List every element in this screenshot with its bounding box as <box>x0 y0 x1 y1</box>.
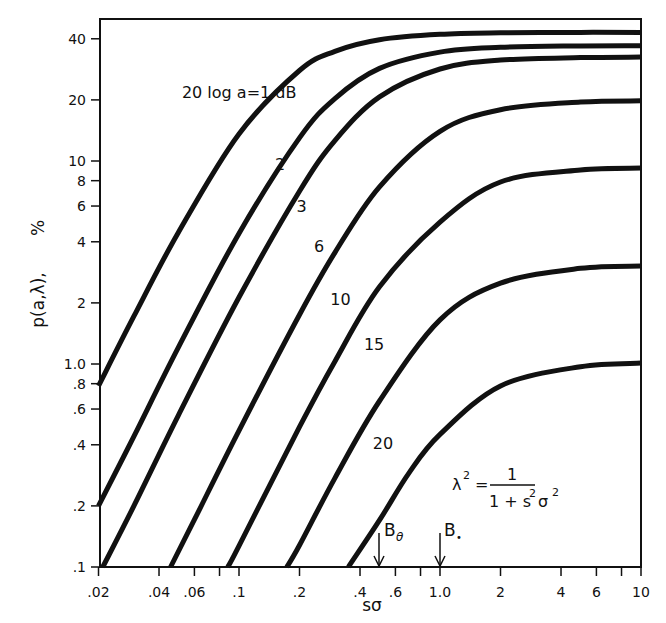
b-e-marker: B • <box>435 520 462 566</box>
y-tick-label: .2 <box>73 498 86 514</box>
b-e-subscript: • <box>456 532 462 543</box>
b-e-label: B <box>444 520 456 540</box>
y-axis-ticks: .1.2.4.6.81.02468102040 <box>64 31 100 575</box>
curves <box>99 32 642 567</box>
y-tick-label: 8 <box>77 173 86 189</box>
y-tick-label: .1 <box>73 559 86 575</box>
chart: .02.04.06.1.2.4.61.024610 .1.2.4.6.81.02… <box>0 0 666 623</box>
y-tick-label: 20 <box>68 92 86 108</box>
y-tick-label: 40 <box>68 31 86 47</box>
curve-label: 20 <box>373 434 393 453</box>
y-tick-label: 4 <box>77 234 86 250</box>
formula-numerator: 1 <box>507 465 517 484</box>
y-tick-label: 1.0 <box>64 356 86 372</box>
x-tick-label: .2 <box>293 584 306 600</box>
curve-label: 15 <box>364 335 384 354</box>
curve-label: 20 log a=1 dB <box>182 83 297 102</box>
curve-label: 2 <box>275 155 285 174</box>
x-tick-label: .1 <box>232 584 245 600</box>
formula-den-sigma: σ <box>538 492 548 511</box>
y-axis-unit: % <box>28 220 48 236</box>
x-tick-label: 6 <box>592 584 601 600</box>
curve-15-db <box>287 266 641 567</box>
curve-3-db <box>103 57 641 567</box>
curve-label: 3 <box>297 197 307 216</box>
y-tick-label: .6 <box>73 401 86 417</box>
y-axis-title-text: p(a,λ), <box>28 272 48 327</box>
curve-labels: 20 log a=1 dB236101520 <box>182 83 393 454</box>
lambda-formula: λ 2 = 1 1 + s 2 σ 2 <box>452 465 559 511</box>
x-tick-label: 4 <box>557 584 566 600</box>
x-tick-label: .02 <box>87 584 109 600</box>
curve-label: 6 <box>314 237 324 256</box>
formula-lhs-sup: 2 <box>463 469 470 482</box>
b-theta-marker: B θ <box>374 520 404 566</box>
x-tick-label: .04 <box>148 584 170 600</box>
curve-label: 10 <box>330 290 350 309</box>
y-axis-title: p(a,λ), % <box>28 220 48 328</box>
x-tick-label: 1.0 <box>429 584 451 600</box>
b-theta-label: B <box>384 520 396 540</box>
formula-lhs: λ <box>452 475 461 494</box>
formula-den-sup2: 2 <box>552 486 559 499</box>
formula-den-a: 1 + s <box>489 492 531 511</box>
x-tick-label: .06 <box>183 584 205 600</box>
x-tick-label: 2 <box>496 584 505 600</box>
y-tick-label: 2 <box>77 295 86 311</box>
y-tick-label: 10 <box>68 153 86 169</box>
curve-1-db <box>99 32 642 386</box>
x-axis-title: sσ <box>362 595 382 615</box>
b-theta-subscript: θ <box>396 530 404 544</box>
x-tick-label: 10 <box>632 584 650 600</box>
y-tick-label: 6 <box>77 198 86 214</box>
formula-den-sup1: 2 <box>529 487 536 500</box>
y-tick-label: .4 <box>73 437 86 453</box>
curve-2-db <box>99 46 642 506</box>
y-tick-label: .8 <box>73 376 86 392</box>
formula-eq: = <box>475 475 488 494</box>
x-tick-label: .6 <box>389 584 402 600</box>
